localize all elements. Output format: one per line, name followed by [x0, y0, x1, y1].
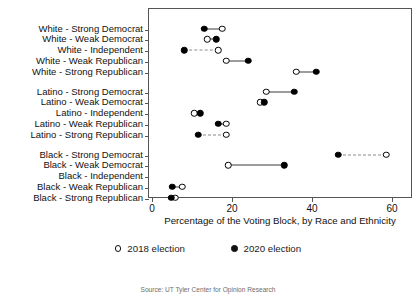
y-axis-tick — [145, 73, 149, 74]
y-axis-tick — [145, 199, 149, 200]
y-axis-tick-label: Black - Weak Democrat — [0, 160, 143, 170]
point-2018 — [263, 88, 270, 95]
y-axis-tick-label: Black - Independent — [0, 171, 143, 181]
point-2020 — [195, 131, 202, 138]
filled-circle-icon — [231, 245, 238, 252]
y-axis-tick-label: Latino - Weak Republican — [0, 119, 143, 129]
point-2018 — [179, 184, 186, 191]
point-2020 — [213, 36, 220, 43]
point-2018 — [293, 68, 300, 75]
point-2018 — [225, 162, 232, 169]
point-2020 — [169, 184, 176, 191]
y-axis-tick-label: Black - Strong Democrat — [0, 150, 143, 160]
y-axis-tick — [145, 103, 149, 104]
point-2020 — [245, 58, 252, 65]
point-2020 — [291, 88, 298, 95]
point-2018 — [204, 36, 211, 43]
legend-item: 2020 election — [231, 243, 301, 254]
point-2020 — [335, 151, 342, 158]
chart-legend: 2018 election2020 election — [0, 243, 416, 254]
point-2020 — [215, 121, 222, 128]
point-2020 — [261, 99, 268, 106]
x-axis-tick-label: 40 — [306, 203, 317, 214]
y-axis-tick — [145, 51, 149, 52]
y-axis-tick — [145, 125, 149, 126]
legend-item: 2018 election — [115, 243, 185, 254]
open-circle-icon — [115, 245, 122, 252]
y-axis-tick-label: White - Strong Republican — [0, 67, 143, 77]
x-axis-tick-label: 20 — [226, 203, 237, 214]
y-axis-tick — [145, 114, 149, 115]
x-axis-tick-label: 0 — [149, 203, 155, 214]
y-axis-tick — [145, 62, 149, 63]
point-2018 — [215, 47, 222, 54]
point-2018 — [223, 121, 230, 128]
legend-label: 2018 election — [127, 243, 185, 254]
y-axis-tick-label: White - Weak Republican — [0, 56, 143, 66]
y-axis-tick-label: White - Strong Democrat — [0, 24, 143, 34]
y-axis-tick-label: Latino - Independent — [0, 108, 143, 118]
y-axis-tick — [145, 188, 149, 189]
x-axis-tick — [152, 198, 153, 202]
y-axis-tick — [145, 156, 149, 157]
point-2018 — [223, 131, 230, 138]
y-axis-tick — [145, 93, 149, 94]
point-2020 — [181, 47, 188, 54]
point-2018 — [383, 151, 390, 158]
point-2020 — [281, 162, 288, 169]
point-2018 — [219, 25, 226, 32]
connector-line — [228, 165, 284, 166]
point-2020 — [197, 110, 204, 117]
y-axis-tick-label: White - Independent — [0, 45, 143, 55]
connector-line — [184, 50, 218, 51]
x-axis-tick-label: 60 — [386, 203, 397, 214]
y-axis-tick-label: Latino - Weak Democrat — [0, 97, 143, 107]
x-axis-tick — [312, 198, 313, 202]
y-axis-tick — [145, 30, 149, 31]
y-axis-tick — [145, 177, 149, 178]
x-axis-tick — [392, 198, 393, 202]
y-axis-tick-label: Latino - Strong Republican — [0, 130, 143, 140]
x-axis-label: Percentage of the Voting Block, by Race … — [148, 215, 412, 226]
y-axis-tick-label: Black - Weak Republican — [0, 182, 143, 192]
point-2020 — [168, 194, 175, 201]
y-axis-tick — [145, 136, 149, 137]
y-axis-tick — [145, 40, 149, 41]
y-axis-tick-label: Latino - Strong Democrat — [0, 87, 143, 97]
legend-label: 2020 election — [244, 243, 302, 254]
plot-area — [148, 8, 412, 198]
point-2020 — [201, 25, 208, 32]
point-2020 — [313, 68, 320, 75]
dumbbell-chart: White - Strong DemocratWhite - Weak Demo… — [0, 0, 416, 306]
y-axis-tick — [145, 166, 149, 167]
x-axis-tick — [232, 198, 233, 202]
y-axis-tick-label: White - Weak Democrat — [0, 34, 143, 44]
y-axis-tick-label: Black - Strong Republican — [0, 193, 143, 203]
connector-line — [338, 154, 386, 155]
source-note: Source: UT Tyler Center for Opinion Rese… — [0, 286, 416, 293]
point-2018 — [223, 58, 230, 65]
